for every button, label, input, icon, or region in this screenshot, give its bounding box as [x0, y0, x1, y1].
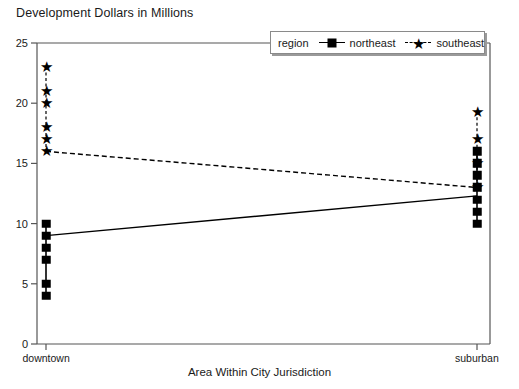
x-tick-label-suburban: suburban — [455, 352, 499, 364]
square-marker-icon — [42, 280, 51, 289]
square-marker-icon — [42, 243, 51, 252]
square-marker-icon — [42, 255, 51, 264]
data-point-northeast-suburban-11 — [473, 207, 482, 216]
data-point-northeast-downtown-5 — [42, 280, 51, 289]
legend-key-square-solid-icon — [319, 36, 345, 50]
star-marker-icon: ★ — [470, 156, 484, 170]
mean-line-northeast — [46, 196, 477, 236]
data-point-northeast-suburban-12 — [473, 195, 482, 204]
x-axis-ticks — [46, 344, 477, 350]
data-point-southeast-suburban-19.3: ★ — [470, 105, 484, 119]
star-marker-icon: ★ — [470, 180, 484, 194]
y-tick-label-5: 5 — [2, 278, 28, 290]
y-tick-label-20: 20 — [2, 97, 28, 109]
square-marker-icon — [42, 231, 51, 240]
square-marker-icon — [42, 219, 51, 228]
star-marker-icon: ★ — [470, 105, 484, 119]
y-tick-label-25: 25 — [2, 37, 28, 49]
square-marker-icon — [42, 292, 51, 301]
data-point-southeast-suburban-17: ★ — [470, 132, 484, 146]
chart-legend[interactable]: region northeast ★ southeast — [270, 31, 485, 54]
point-stems — [46, 67, 477, 296]
legend-label-southeast: southeast — [436, 37, 484, 49]
data-point-southeast-downtown-16: ★ — [39, 144, 53, 158]
data-point-southeast-suburban-15: ★ — [470, 156, 484, 170]
data-point-northeast-suburban-10 — [473, 219, 482, 228]
data-point-northeast-downtown-4 — [42, 292, 51, 301]
legend-entry-northeast[interactable]: northeast — [319, 36, 396, 50]
mean-line-southeast — [46, 151, 477, 187]
x-axis-title: Area Within City Jurisdiction — [0, 366, 519, 378]
square-marker-icon — [473, 219, 482, 228]
y-tick-label-10: 10 — [2, 218, 28, 230]
square-marker-icon — [473, 195, 482, 204]
data-point-northeast-downtown-7 — [42, 255, 51, 264]
series-lines — [46, 151, 477, 235]
star-marker-icon: ★ — [470, 132, 484, 146]
data-point-northeast-downtown-10 — [42, 219, 51, 228]
chart-container: Development Dollars in Millions 05101520… — [0, 0, 519, 389]
legend-entry-southeast[interactable]: ★ southeast — [405, 36, 484, 50]
data-point-southeast-downtown-23: ★ — [39, 60, 53, 74]
square-marker-icon — [473, 207, 482, 216]
plot-area — [0, 0, 519, 389]
y-tick-label-0: 0 — [2, 338, 28, 350]
data-point-southeast-downtown-20: ★ — [39, 96, 53, 110]
star-marker-icon: ★ — [39, 96, 53, 110]
legend-key-star-dashed-icon: ★ — [405, 36, 431, 50]
legend-label-northeast: northeast — [350, 37, 396, 49]
data-point-southeast-suburban-13: ★ — [470, 180, 484, 194]
star-marker-icon: ★ — [39, 144, 53, 158]
star-marker-icon: ★ — [39, 60, 53, 74]
data-point-northeast-downtown-8 — [42, 243, 51, 252]
legend-title: region — [278, 37, 309, 49]
data-point-northeast-downtown-9 — [42, 231, 51, 240]
y-tick-label-15: 15 — [2, 157, 28, 169]
axis-frame — [37, 43, 490, 344]
y-axis-ticks — [31, 43, 37, 344]
x-tick-label-downtown: downtown — [23, 352, 70, 364]
